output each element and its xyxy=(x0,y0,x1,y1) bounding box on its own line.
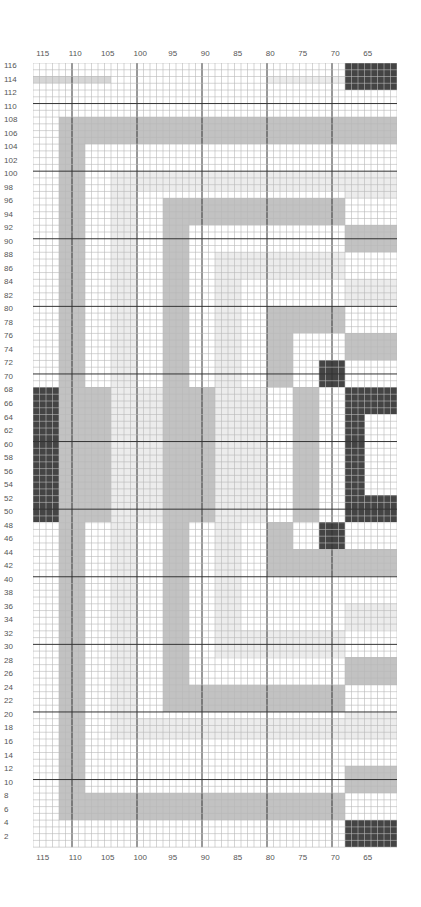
column-label: 95 xyxy=(168,49,177,59)
row-label: 114 xyxy=(4,75,26,85)
row-label: 2 xyxy=(4,832,26,842)
row-label: 34 xyxy=(4,615,26,625)
row-label: 48 xyxy=(4,521,26,531)
row-label: 108 xyxy=(4,115,26,125)
row-label: 104 xyxy=(4,142,26,152)
column-label: 100 xyxy=(134,853,147,863)
row-label: 26 xyxy=(4,669,26,679)
column-label: 115 xyxy=(36,853,49,863)
row-label: 4 xyxy=(4,818,26,828)
chart-grid xyxy=(33,63,397,847)
column-label: 110 xyxy=(69,853,82,863)
column-label: 100 xyxy=(134,49,147,59)
column-label: 70 xyxy=(331,49,340,59)
knitting-chart: 11511010510095908580757065 1151101051009… xyxy=(0,0,421,907)
column-label: 105 xyxy=(101,853,114,863)
column-label: 95 xyxy=(168,853,177,863)
row-label: 40 xyxy=(4,575,26,585)
row-label: 18 xyxy=(4,723,26,733)
row-label: 96 xyxy=(4,196,26,206)
row-label: 36 xyxy=(4,602,26,612)
row-label: 64 xyxy=(4,413,26,423)
row-label: 106 xyxy=(4,129,26,139)
row-label: 44 xyxy=(4,548,26,558)
column-label: 80 xyxy=(266,49,275,59)
row-label: 10 xyxy=(4,778,26,788)
row-label: 56 xyxy=(4,467,26,477)
row-label: 16 xyxy=(4,737,26,747)
row-label: 24 xyxy=(4,683,26,693)
row-label: 100 xyxy=(4,169,26,179)
row-label: 90 xyxy=(4,237,26,247)
row-label: 6 xyxy=(4,805,26,815)
row-label: 8 xyxy=(4,791,26,801)
row-label: 92 xyxy=(4,223,26,233)
column-label: 105 xyxy=(101,49,114,59)
column-label: 70 xyxy=(331,853,340,863)
row-label: 86 xyxy=(4,264,26,274)
row-label: 68 xyxy=(4,385,26,395)
row-label: 66 xyxy=(4,399,26,409)
row-label: 98 xyxy=(4,183,26,193)
row-label: 12 xyxy=(4,764,26,774)
row-label: 14 xyxy=(4,751,26,761)
row-label: 38 xyxy=(4,588,26,598)
row-label: 74 xyxy=(4,345,26,355)
row-label: 72 xyxy=(4,358,26,368)
column-label: 85 xyxy=(233,853,242,863)
row-label: 20 xyxy=(4,710,26,720)
row-label: 50 xyxy=(4,507,26,517)
row-label: 28 xyxy=(4,656,26,666)
column-label: 80 xyxy=(266,853,275,863)
column-label: 75 xyxy=(298,853,307,863)
row-label: 80 xyxy=(4,304,26,314)
row-label: 54 xyxy=(4,480,26,490)
row-label: 82 xyxy=(4,291,26,301)
row-label: 102 xyxy=(4,156,26,166)
row-label: 110 xyxy=(4,102,26,112)
row-label: 78 xyxy=(4,318,26,328)
row-label: 30 xyxy=(4,642,26,652)
row-label: 116 xyxy=(4,61,26,71)
row-label: 42 xyxy=(4,561,26,571)
column-label: 85 xyxy=(233,49,242,59)
row-label: 46 xyxy=(4,534,26,544)
row-label: 112 xyxy=(4,88,26,98)
row-label: 76 xyxy=(4,331,26,341)
column-label: 65 xyxy=(363,49,372,59)
column-label: 90 xyxy=(201,853,210,863)
row-label: 84 xyxy=(4,277,26,287)
column-label: 75 xyxy=(298,49,307,59)
row-label: 32 xyxy=(4,629,26,639)
column-label: 115 xyxy=(36,49,49,59)
column-label: 110 xyxy=(69,49,82,59)
row-label: 60 xyxy=(4,440,26,450)
row-label: 70 xyxy=(4,372,26,382)
row-label: 94 xyxy=(4,210,26,220)
row-label: 58 xyxy=(4,453,26,463)
column-label: 90 xyxy=(201,49,210,59)
row-label: 22 xyxy=(4,696,26,706)
row-label: 62 xyxy=(4,426,26,436)
grid-lines xyxy=(33,63,397,848)
row-label: 88 xyxy=(4,250,26,260)
column-label: 65 xyxy=(363,853,372,863)
row-label: 52 xyxy=(4,494,26,504)
